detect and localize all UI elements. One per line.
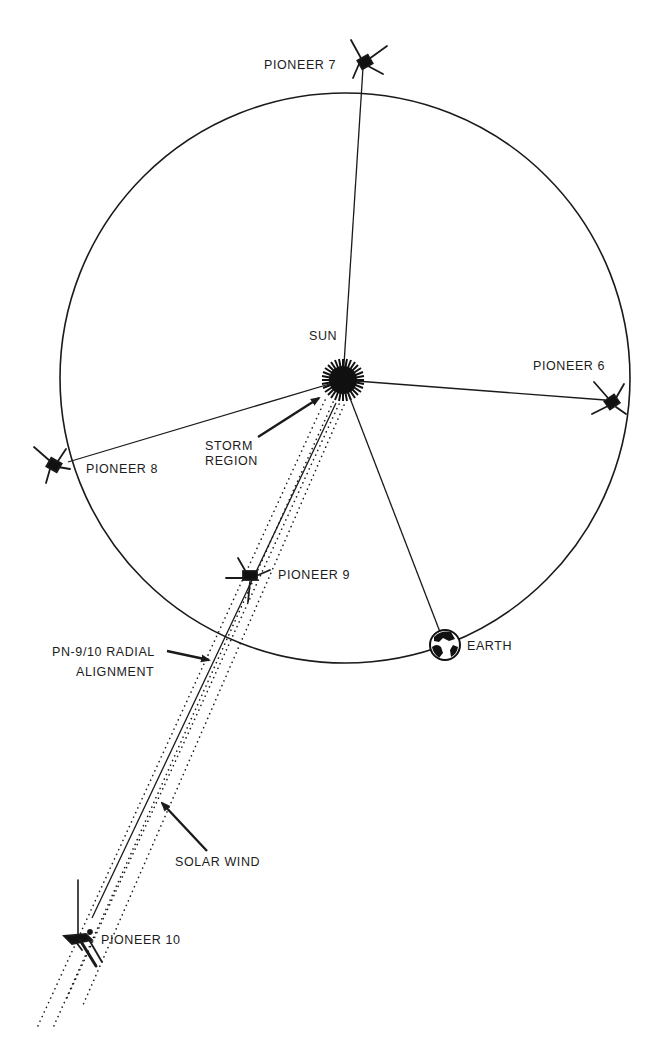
storm-region-arrow [258,398,319,437]
diagram-canvas: SUN EARTH PIONEER 7 PIONEER 6 PIONEER 8 [0,0,659,1042]
pioneer-8-spacecraft-icon [34,447,70,483]
storm-region-label-line1: STORM [205,439,253,453]
radial-alignment-label-line2: ALIGNMENT [76,665,154,679]
pioneer-8-label: PIONEER 8 [86,462,158,476]
pioneer-6-label: PIONEER 6 [533,359,605,373]
sun-icon [322,359,364,401]
radial-alignment-arrow [167,651,209,660]
pioneer-6-spacecraft-icon [592,382,626,414]
earth-label: EARTH [467,639,512,653]
pioneer-7-spacecraft-icon [351,40,387,78]
line-sun-earth [343,380,440,632]
line-sun-pioneer7 [343,68,363,380]
solar-wind-label: SOLAR WIND [175,855,260,869]
solar-wind-arrow [162,803,207,851]
pioneer-10-spacecraft-icon [64,880,102,966]
pioneer-7-label: PIONEER 7 [264,58,336,72]
earth-icon [430,630,460,660]
radial-alignment-label-line1: PN-9/10 RADIAL [52,645,155,659]
line-sun-pioneer6 [343,380,605,400]
pioneer-10-label: PIONEER 10 [101,933,181,947]
storm-region-label-line2: REGION [205,454,258,468]
pioneer-9-spacecraft-icon [226,558,270,602]
pn-9-10-radial-line [92,403,336,918]
pioneer-9-label: PIONEER 9 [278,568,350,582]
sun-label: SUN [309,329,337,343]
